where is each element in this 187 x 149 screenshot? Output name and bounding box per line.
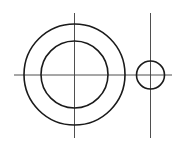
drawing-svg-root — [0, 0, 187, 149]
technical-drawing-canvas — [0, 0, 187, 149]
canvas-background — [0, 0, 187, 149]
